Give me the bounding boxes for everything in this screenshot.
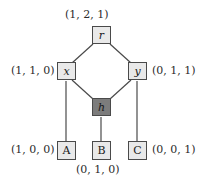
diagram-canvas: (1, 2, 1) r (1, 1, 0) x y (0, 1, 1) h (1… — [0, 0, 203, 184]
node-b[interactable]: B — [92, 141, 111, 160]
node-y[interactable]: y — [128, 62, 147, 80]
node-r[interactable]: r — [92, 26, 111, 44]
node-a[interactable]: A — [57, 141, 76, 160]
label-x-vector: (1, 1, 0) — [11, 64, 55, 77]
label-b-vector: (0, 1, 0) — [76, 163, 120, 176]
node-c[interactable]: C — [128, 141, 147, 160]
label-c-vector: (0, 0, 1) — [152, 143, 196, 156]
label-a-vector: (1, 0, 0) — [11, 143, 55, 156]
label-r-vector: (1, 2, 1) — [65, 8, 109, 21]
edge-r-y — [110, 44, 131, 63]
node-x[interactable]: x — [57, 62, 76, 80]
label-y-vector: (0, 1, 1) — [152, 64, 196, 77]
edge-x-h — [72, 80, 93, 99]
edge-y-h — [110, 80, 131, 99]
edge-r-x — [72, 44, 93, 63]
node-h[interactable]: h — [92, 98, 111, 116]
